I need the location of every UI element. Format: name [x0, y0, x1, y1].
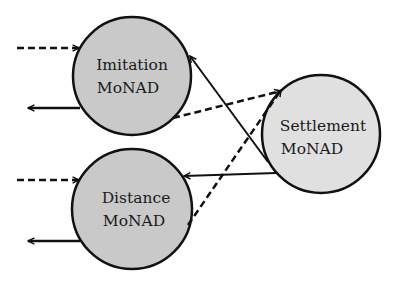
settlement-to-distance-arrow: [184, 173, 276, 176]
settlement-label-line1: Settlement: [280, 117, 367, 135]
distance-label-line2: MoNAD: [103, 212, 165, 230]
settlement-to-imitation-arrow: [190, 56, 268, 162]
monad-diagram: Imitation MoNAD Distance MoNAD Settlemen…: [0, 0, 398, 281]
imitation-label-line1: Imitation: [96, 56, 168, 74]
node-distance: Distance MoNAD: [72, 149, 192, 269]
settlement-label-line2: MoNAD: [281, 140, 343, 158]
imitation-label-line2: MoNAD: [97, 79, 159, 97]
distance-label-line1: Distance: [102, 189, 171, 207]
